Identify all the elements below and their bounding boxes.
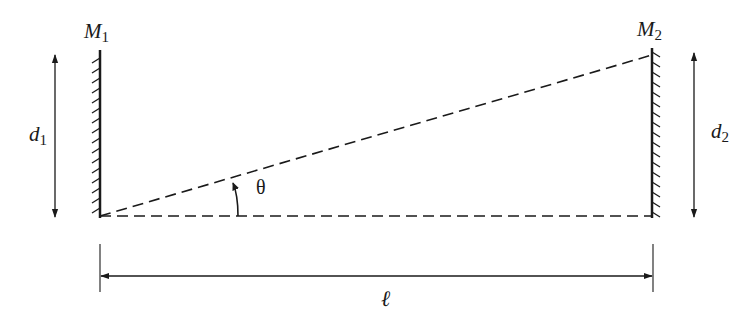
mirror1-label: M1	[83, 19, 109, 45]
diagram-canvas: M1 M2 d1 d2 θ ℓ	[0, 0, 755, 318]
length-dimension	[100, 244, 653, 292]
d1-label: d1	[29, 122, 47, 148]
angle-arrow	[233, 183, 238, 216]
angle-label: θ	[256, 176, 266, 198]
length-label: ℓ	[381, 286, 391, 311]
d2-label: d2	[711, 119, 729, 145]
slanted-beam	[100, 55, 652, 216]
mirror-tilt-diagram: M1 M2 d1 d2 θ ℓ	[0, 0, 755, 318]
mirror-m2	[652, 48, 660, 218]
mirror2-label: M2	[636, 17, 662, 43]
mirror-m1	[92, 50, 100, 218]
